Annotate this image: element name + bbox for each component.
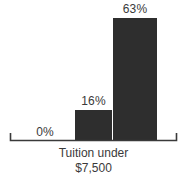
bar-value-label-1: 16% [75,95,112,108]
bar-chart: 0% 16% 63% Tuition under $7,500 [0,0,187,182]
bar-value-label-0: 0% [26,126,64,139]
x-axis-caption-line-1: Tuition under [0,146,187,161]
bar-1 [75,110,112,141]
plot-area: 0% 16% 63% [0,0,187,141]
x-axis-caption-line-2: $7,500 [0,161,187,176]
x-axis-caption: Tuition under $7,500 [0,146,187,176]
bar-value-label-2: 63% [113,3,157,16]
bar-2 [113,18,157,141]
